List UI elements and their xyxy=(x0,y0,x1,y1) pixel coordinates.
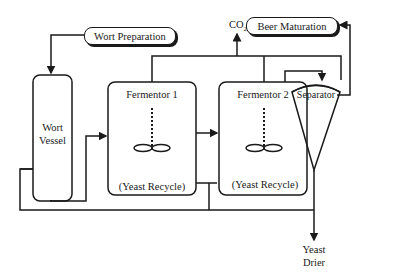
yeast-recycle-label-1: (Yeast Recycle) xyxy=(112,182,192,193)
yeast-drier-label: Yeast Drier xyxy=(294,243,334,269)
yeast-drier-line2: Drier xyxy=(294,256,334,269)
co2-text: CO xyxy=(229,19,244,30)
yeast-drier-line1: Yeast xyxy=(294,243,334,256)
arrow-f2-to-separator xyxy=(285,71,322,82)
wort-vessel-label: Wort Vessel xyxy=(33,121,72,147)
fermentor1-label: Fermentor 1 xyxy=(108,90,196,101)
wort-preparation-node: Wort Preparation xyxy=(84,27,176,45)
co2-subscript: 2 xyxy=(244,25,248,33)
separator-label: Separator xyxy=(292,90,340,100)
wort-preparation-label: Wort Preparation xyxy=(94,31,166,42)
beer-maturation-label: Beer Maturation xyxy=(257,21,326,32)
co2-header-line xyxy=(152,56,341,82)
wort-vessel-line1: Wort xyxy=(33,121,72,134)
beer-maturation-node: Beer Maturation xyxy=(246,17,338,35)
co2-label: CO2 xyxy=(229,20,247,33)
wort-vessel-line2: Vessel xyxy=(33,134,72,147)
yeast-recycle-label-2: (Yeast Recycle) xyxy=(222,180,308,191)
arrow-prep-to-vessel xyxy=(51,35,84,73)
arrow-separator-to-maturation xyxy=(337,25,350,95)
